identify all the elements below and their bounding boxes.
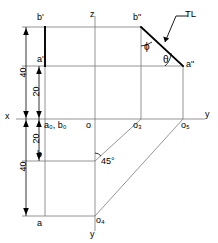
dim-arrow-upper-outer-bottom	[23, 111, 29, 118]
label-o3: o₃	[133, 121, 142, 130]
dim-arrow-lower-outer-bottom	[23, 208, 29, 215]
dim-arrow-upper-inner-bottom	[36, 111, 42, 118]
dim-value-upper-inner: 20	[32, 81, 41, 103]
label-b-top: b	[37, 150, 42, 159]
label-a-front: a'	[37, 55, 44, 64]
label-axis-z: z	[90, 10, 95, 19]
label-a-side: a"	[186, 60, 194, 69]
label-axis-x: x	[5, 112, 10, 121]
label-o5: o₅	[181, 121, 190, 130]
label-axis-y-bottom: y	[90, 230, 95, 239]
label-angle-phi: ϕ	[144, 42, 150, 52]
dim-arrow-upper-outer-top	[23, 28, 29, 35]
label-a-top: a	[37, 219, 42, 228]
dim-value-lower-outer: 40	[19, 156, 28, 178]
label-true-length: TL	[185, 9, 196, 19]
miter-line-lower	[95, 119, 183, 216]
dim-arrow-lower-outer-top	[23, 120, 29, 127]
dim-value-lower-inner: 20	[32, 128, 41, 150]
label-o4: o₄	[96, 216, 105, 225]
label-b-front: b'	[37, 13, 44, 22]
label-axis-y-right: y	[205, 110, 210, 119]
label-angle-theta: θ	[163, 55, 169, 65]
technical-drawing-canvas: b' a' b" a" b a a₀, b₀ o o₃ o₄ o₅ x z y …	[0, 0, 218, 243]
dim-arrow-upper-inner-top	[36, 67, 42, 74]
dim-arrow-lower-inner-top	[36, 120, 42, 127]
label-b-side: b"	[133, 13, 141, 22]
tl-leader-arrowhead	[163, 37, 169, 42]
label-miter-angle: 45°	[101, 157, 115, 166]
dim-value-upper-outer: 40	[19, 62, 28, 84]
label-a0-b0: a₀, b₀	[44, 121, 66, 130]
label-origin: o	[86, 121, 91, 130]
